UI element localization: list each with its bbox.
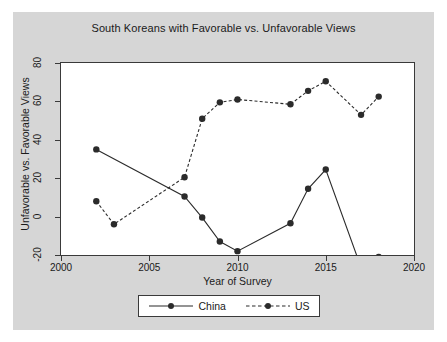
series-line-china	[96, 149, 378, 255]
plot-area	[60, 62, 415, 256]
y-tick-label: 60	[32, 86, 43, 116]
x-tick-mark	[149, 256, 150, 261]
x-tick-mark	[61, 256, 62, 261]
x-tick-mark	[414, 256, 415, 261]
data-point[interactable]	[287, 101, 293, 107]
data-point[interactable]	[111, 221, 117, 227]
y-tick-label: 40	[32, 124, 43, 154]
page-title: South Koreans with Favorable vs. Unfavor…	[0, 22, 447, 34]
legend-swatch-solid-icon	[148, 300, 194, 312]
plot-svg	[61, 63, 414, 255]
data-point[interactable]	[358, 112, 364, 118]
x-tick-label: 2010	[218, 262, 258, 273]
x-tick-label: 2015	[306, 262, 346, 273]
legend-item-china[interactable]: China	[148, 300, 225, 312]
y-tick-mark	[55, 255, 60, 256]
legend-label-china: China	[198, 300, 225, 312]
y-tick-mark	[55, 101, 60, 102]
data-point[interactable]	[323, 78, 329, 84]
y-axis-title: Unfavorable vs. Favorable Views	[19, 44, 31, 264]
y-tick-label: 20	[32, 163, 43, 193]
data-point[interactable]	[93, 146, 99, 152]
y-tick-label: 0	[32, 201, 43, 231]
y-tick-mark	[55, 178, 60, 179]
x-tick-mark	[326, 256, 327, 261]
data-point[interactable]	[217, 238, 223, 244]
data-point[interactable]	[287, 220, 293, 226]
y-tick-mark	[55, 63, 60, 64]
legend-swatch-dashed-icon	[245, 300, 291, 312]
x-tick-label: 2000	[41, 262, 81, 273]
x-axis-title: Year of Survey	[60, 275, 415, 287]
y-tick-mark	[55, 217, 60, 218]
data-point[interactable]	[217, 99, 223, 105]
legend-label-us: US	[295, 300, 310, 312]
legend: China US	[138, 295, 320, 317]
data-point[interactable]	[376, 93, 382, 99]
data-point[interactable]	[181, 193, 187, 199]
data-point[interactable]	[93, 198, 99, 204]
data-point[interactable]	[234, 248, 240, 254]
y-tick-mark	[55, 140, 60, 141]
data-point[interactable]	[376, 254, 382, 255]
data-point[interactable]	[234, 96, 240, 102]
chart-page: South Koreans with Favorable vs. Unfavor…	[0, 0, 447, 342]
data-point[interactable]	[305, 88, 311, 94]
data-point[interactable]	[181, 174, 187, 180]
series-line-us	[96, 81, 378, 224]
data-point[interactable]	[199, 115, 205, 121]
legend-item-us[interactable]: US	[245, 300, 310, 312]
y-tick-label: 80	[32, 48, 43, 78]
data-point[interactable]	[199, 214, 205, 220]
x-tick-label: 2020	[394, 262, 434, 273]
data-point[interactable]	[305, 186, 311, 192]
x-tick-label: 2005	[129, 262, 169, 273]
x-tick-mark	[238, 256, 239, 261]
data-point[interactable]	[323, 166, 329, 172]
